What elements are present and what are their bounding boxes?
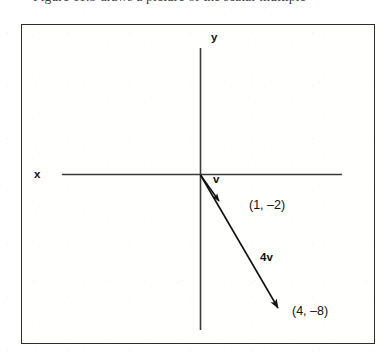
figure-caption-strip: Figure 11.5 draws a picture of the scala… — [0, 0, 392, 13]
vector-4v-label: 4v — [260, 251, 273, 263]
point-label-4v: (4, –8) — [292, 304, 328, 318]
y-axis-label: y — [211, 31, 217, 43]
figure-frame — [21, 24, 375, 344]
x-axis-label: x — [34, 168, 40, 180]
point-label-v: (1, –2) — [249, 198, 285, 212]
vector-v-label: v — [213, 173, 219, 185]
figure-caption-text: Figure 11.5 draws a picture of the scala… — [33, 0, 306, 5]
